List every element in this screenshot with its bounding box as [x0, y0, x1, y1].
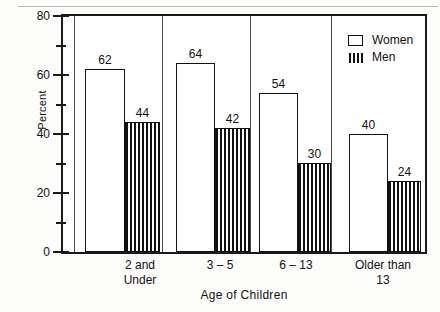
bar-women-6-13[interactable]: 54 [259, 93, 298, 252]
x-category-label-6-13: 6 – 13 [256, 258, 336, 273]
bar-women-2-and-under[interactable]: 62 [85, 69, 125, 252]
legend-label-men: Men [372, 49, 395, 66]
x-category-label-2-and-under: 2 and Under [95, 258, 185, 288]
bar-men-older-than-13[interactable]: 24 [388, 181, 421, 252]
bar-value-label: 44 [136, 106, 149, 120]
y-tick-label: 60 [16, 67, 50, 83]
legend-item-men[interactable]: Men [348, 49, 413, 66]
bar-value-label: 64 [189, 47, 202, 61]
scan-artifact-line [18, 6, 438, 7]
chart-legend: Women Men [348, 32, 413, 66]
bar-value-label: 40 [362, 118, 375, 132]
x-category-label-older-than-13: Older than 13 [335, 258, 431, 288]
bar-women-older-than-13[interactable]: 40 [349, 134, 388, 252]
bar-group-2-and-under: 62 44 [63, 16, 162, 252]
bar-chart: Percent 80 60 40 20 0 6 [0, 0, 440, 312]
bar-men-2-and-under[interactable]: 44 [125, 122, 160, 252]
y-tick-label: 80 [16, 8, 50, 24]
bar-value-label: 54 [272, 77, 285, 91]
bar-men-3-5[interactable]: 42 [215, 128, 250, 252]
bar-women-3-5[interactable]: 64 [176, 63, 215, 252]
legend-label-women: Women [372, 32, 413, 49]
y-tick-label: 0 [16, 244, 50, 260]
legend-item-women[interactable]: Women [348, 32, 413, 49]
bar-value-label: 24 [398, 165, 411, 179]
x-axis-title: Age of Children [61, 288, 427, 302]
y-tick-label: 40 [16, 126, 50, 142]
hatched-rectangle-swatch-icon [349, 53, 363, 63]
bar-men-6-13[interactable]: 30 [298, 163, 331, 252]
bar-value-label: 62 [98, 53, 111, 67]
bar-group-6-13: 54 30 [250, 16, 331, 252]
x-category-label-3-5: 3 – 5 [180, 258, 260, 273]
bar-group-3-5: 64 42 [162, 16, 250, 252]
bar-value-label: 30 [308, 147, 321, 161]
y-tick-label: 20 [16, 185, 50, 201]
open-rectangle-swatch-icon [348, 35, 363, 46]
bar-value-label: 42 [226, 112, 239, 126]
